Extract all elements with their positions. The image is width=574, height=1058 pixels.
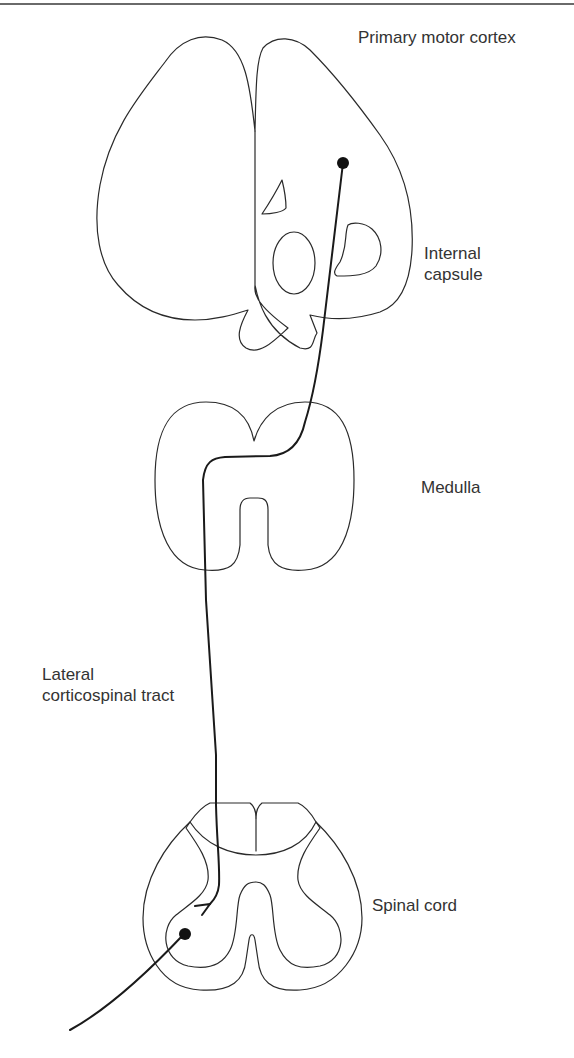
lower-motor-neuron-dot [179,928,191,940]
lentiform-nucleus [335,223,381,276]
label-text: Primary motor cortex [358,27,516,48]
label-spinal-cord: Spinal cord [372,895,457,916]
upper-motor-neuron-dot [337,157,349,169]
gray-matter-outline [166,822,341,967]
label-text: Medulla [421,477,481,498]
label-text: Spinal cord [372,895,457,916]
label-medulla: Medulla [421,477,481,498]
cerebrum-section [97,37,412,350]
label-lateral-corticospinal-tract: Lateral corticospinal tract [42,664,174,706]
corticospinal-diagram [0,0,574,1058]
label-primary-motor-cortex: Primary motor cortex [358,27,516,48]
thalamus [273,232,315,294]
medulla-outline [155,402,354,570]
label-line-1: Lateral [42,664,174,685]
label-internal-capsule: Internal capsule [424,243,483,285]
cerebrum-outline [97,37,412,350]
lateral-ventricle [262,180,286,214]
medulla-section [155,402,354,570]
synapse-fork [195,904,210,915]
tract-line [203,163,343,904]
spinal-cord-section [143,803,362,990]
lower-motor-neuron-axon [70,934,184,1030]
label-line-1: Internal [424,243,483,264]
label-line-2: capsule [424,264,483,285]
label-line-2: corticospinal tract [42,685,174,706]
